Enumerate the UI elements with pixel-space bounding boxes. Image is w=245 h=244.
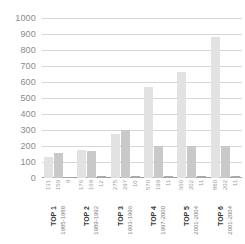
- data-label: 12: [97, 180, 106, 206]
- bar-series-3: [131, 176, 140, 178]
- x-axis-category: TOP 6 2001-2004: [209, 206, 242, 244]
- category-name: TOP 6: [217, 206, 225, 226]
- category-name: TOP 2: [83, 206, 91, 226]
- bar-series-3: [64, 177, 73, 178]
- y-axis: 1000 900 800 700 600 500 400 300 200 100…: [0, 18, 40, 178]
- y-tick-label: 100: [20, 157, 36, 167]
- data-label: 11: [164, 180, 173, 206]
- data-label: 10: [131, 180, 140, 206]
- x-axis-category: TOP 2 1989-1992: [75, 206, 108, 244]
- bar-group: [175, 18, 208, 178]
- y-tick-label: 400: [20, 109, 36, 119]
- x-axis-category: TOP 3 1993-1996: [109, 206, 142, 244]
- category-name: TOP 5: [183, 206, 191, 226]
- category-name: TOP 4: [150, 206, 158, 226]
- y-tick-label: 300: [20, 125, 36, 135]
- y-tick-label: 0: [31, 173, 36, 183]
- category-years: 2001-2004: [227, 206, 234, 235]
- category-years: 1985-1988: [60, 206, 67, 235]
- category-years: 1989-1992: [93, 206, 100, 235]
- bar-group: [142, 18, 175, 178]
- bar-group: [75, 18, 108, 178]
- bar-series-2: [154, 146, 163, 178]
- y-tick-label: 600: [20, 77, 36, 87]
- data-label-group: 131 159 9: [42, 180, 75, 206]
- data-label: 11: [231, 180, 240, 206]
- data-label-group: 660 202 11: [175, 180, 208, 206]
- y-tick-label: 1000: [15, 13, 36, 23]
- x-axis-category: TOP 5 2001-2004: [175, 206, 208, 244]
- category-years: 1997-2000: [160, 206, 167, 235]
- y-tick-label: 800: [20, 45, 36, 55]
- data-label: 11: [197, 180, 206, 206]
- data-label: 202: [187, 180, 196, 206]
- data-label: 202: [221, 180, 230, 206]
- data-label-group: 880 202 11: [209, 180, 242, 206]
- category-years: 1993-1996: [127, 206, 134, 235]
- bar-group: [109, 18, 142, 178]
- bar-series-2: [121, 130, 130, 178]
- bar-series-1: [177, 72, 186, 178]
- category-name: TOP 3: [117, 206, 125, 226]
- bar-series-2: [54, 153, 63, 178]
- data-label: 297: [121, 180, 130, 206]
- bar-series-1: [111, 134, 120, 178]
- bar-series-2: [87, 151, 96, 178]
- bar-series-3: [231, 176, 240, 178]
- data-label: 169: [87, 180, 96, 206]
- data-label-group: 570 199 11: [142, 180, 175, 206]
- bar-group: [42, 18, 75, 178]
- bar-series-3: [97, 176, 106, 178]
- x-axis-category: TOP 4 1997-2000: [142, 206, 175, 244]
- data-label: 880: [211, 180, 220, 206]
- bar-group: [209, 18, 242, 178]
- data-label: 131: [44, 180, 53, 206]
- category-name: TOP 1: [50, 206, 58, 226]
- bar-series-2: [187, 146, 196, 178]
- plot-area: [42, 18, 242, 178]
- bar-chart: 1000 900 800 700 600 500 400 300 200 100…: [0, 0, 245, 244]
- data-label: 176: [77, 180, 86, 206]
- category-years: 2001-2004: [193, 206, 200, 235]
- bar-groups: [42, 18, 242, 178]
- bar-series-3: [197, 176, 206, 178]
- y-tick-label: 500: [20, 93, 36, 103]
- data-label: 660: [177, 180, 186, 206]
- data-label-group: 275 297 10: [109, 180, 142, 206]
- bar-series-1: [211, 37, 220, 178]
- bar-series-1: [144, 87, 153, 178]
- data-label: 275: [111, 180, 120, 206]
- data-label: 570: [144, 180, 153, 206]
- y-tick-label: 700: [20, 61, 36, 71]
- data-label: 9: [64, 180, 73, 206]
- bar-series-3: [164, 176, 173, 178]
- bar-series-1: [44, 157, 53, 178]
- data-label: 199: [154, 180, 163, 206]
- bar-series-1: [77, 150, 86, 178]
- x-axis-category: TOP 1 1985-1988: [42, 206, 75, 244]
- data-labels: 131 159 9 176 169 12 275 297 10 570 199 …: [42, 180, 242, 206]
- data-label: 159: [54, 180, 63, 206]
- data-label-group: 176 169 12: [75, 180, 108, 206]
- x-axis-labels: TOP 1 1985-1988 TOP 2 1989-1992 TOP 3 19…: [42, 206, 242, 244]
- bar-series-2: [221, 146, 230, 178]
- y-tick-label: 200: [20, 141, 36, 151]
- y-tick-label: 900: [20, 29, 36, 39]
